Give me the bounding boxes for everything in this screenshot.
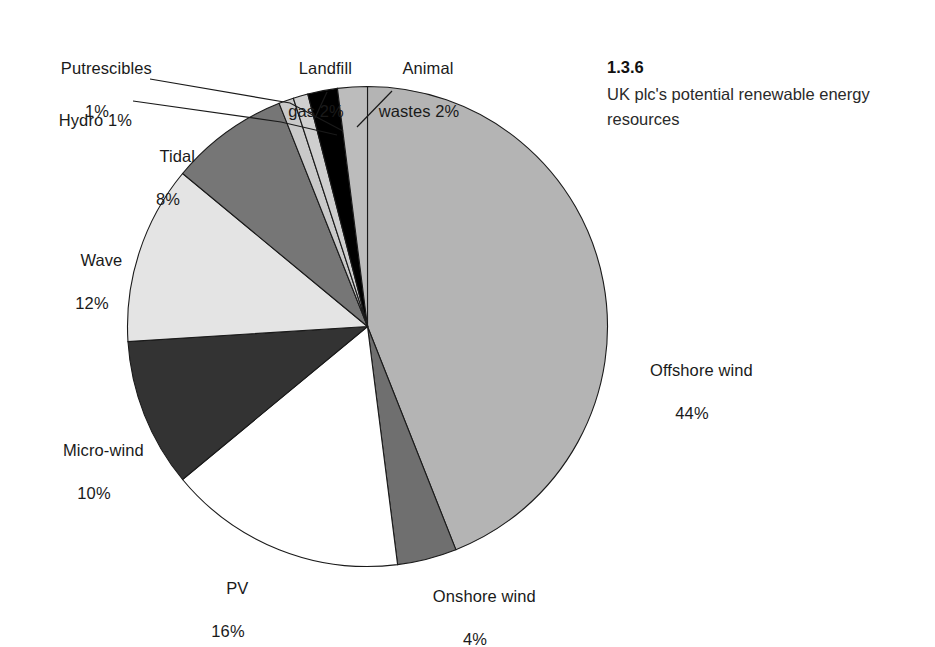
slice-label-animal-wastes-line2: wastes 2%: [355, 101, 483, 123]
slice-label-pv-percent: 16%: [183, 621, 273, 643]
slice-label-micro-wind: Micro-wind 10%: [28, 418, 160, 549]
slice-label-micro-wind-name: Micro-wind: [63, 441, 144, 459]
slice-label-animal-wastes: Animal wastes 2%: [355, 36, 483, 167]
slice-label-pv: PV 16%: [183, 556, 273, 647]
slice-label-onshore-wind-percent: 4%: [396, 629, 554, 647]
slice-label-pv-name: PV: [226, 579, 248, 597]
slice-label-offshore-wind-percent: 44%: [612, 403, 772, 425]
slice-label-offshore-wind: Offshore wind 44%: [612, 338, 772, 469]
slice-label-landfill-gas-line1: Landfill: [299, 59, 352, 77]
figure-caption-text: UK plc's potential renewable energy reso…: [607, 82, 917, 132]
slice-label-wave-name: Wave: [80, 251, 122, 269]
slice-label-wave: Wave 12%: [42, 228, 142, 359]
slice-label-animal-wastes-line1: Animal: [402, 59, 453, 77]
slice-label-offshore-wind-name: Offshore wind: [650, 361, 753, 379]
slice-label-wave-percent: 12%: [42, 293, 142, 315]
figure-number: 1.3.6: [607, 58, 917, 77]
slice-label-tidal-percent: 8%: [118, 189, 218, 211]
slice-label-hydro: Hydro 1%: [12, 88, 132, 153]
slice-label-landfill-gas: Landfill gas 2%: [262, 36, 370, 167]
slice-label-landfill-gas-line2: gas 2%: [262, 101, 370, 123]
slice-label-micro-wind-percent: 10%: [28, 483, 160, 505]
figure-pie-chart: Putrescibles 1% Hydro 1% Tidal 8% Wave 1…: [0, 0, 935, 647]
slice-label-onshore-wind-name: Onshore wind: [433, 587, 536, 605]
figure-caption: 1.3.6 UK plc's potential renewable energ…: [607, 58, 917, 132]
slice-label-putrescibles-name: Putrescibles: [61, 59, 152, 77]
slice-label-tidal-name: Tidal: [159, 147, 195, 165]
slice-label-onshore-wind: Onshore wind 4%: [396, 564, 554, 647]
